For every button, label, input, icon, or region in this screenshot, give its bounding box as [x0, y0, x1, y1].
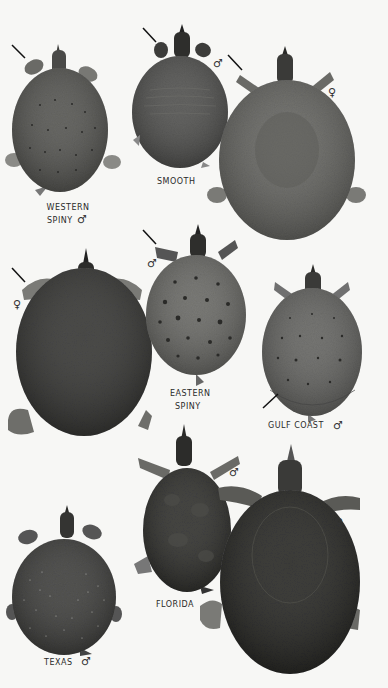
sex-symbol-florida-female: ♀: [335, 517, 343, 528]
label-florida: FLORIDA: [156, 599, 194, 610]
label-eastern-spiny-line1: EASTERN: [170, 388, 211, 399]
label-western-spiny-line2: SPINY: [47, 215, 73, 226]
turtle-gulf-coast: [262, 264, 362, 422]
sex-symbol-western-spiny: ♂: [77, 214, 87, 225]
label-texas: TEXAS: [44, 657, 72, 668]
label-gulf-coast: GULF COAST: [268, 420, 324, 431]
turtle-eastern-spiny-female: [8, 248, 152, 436]
turtle-plate-illustration: [0, 0, 388, 688]
label-western-spiny-line1: WESTERN: [38, 202, 98, 213]
sex-symbol-gulf-coast: ♂: [333, 420, 343, 431]
turtle-florida-female: [200, 444, 360, 674]
sex-symbol-smooth-male: ♂: [213, 58, 223, 69]
turtle-western-spiny: [5, 44, 121, 196]
sex-symbol-florida-male: ♂: [229, 467, 239, 478]
sex-symbol-eastern-spiny-male: ♂: [147, 258, 157, 269]
sex-symbol-smooth-female: ♀: [328, 87, 336, 98]
label-smooth: SMOOTH: [157, 176, 195, 187]
label-eastern-spiny-line2: SPINY: [175, 401, 201, 412]
turtle-texas: [6, 505, 122, 656]
sex-symbol-eastern-spiny-female: ♀: [13, 299, 21, 310]
turtle-eastern-spiny-male: [143, 224, 246, 386]
sex-symbol-texas: ♂: [81, 656, 91, 667]
turtle-smooth-male: [132, 24, 228, 168]
turtle-smooth-female: [207, 46, 366, 240]
